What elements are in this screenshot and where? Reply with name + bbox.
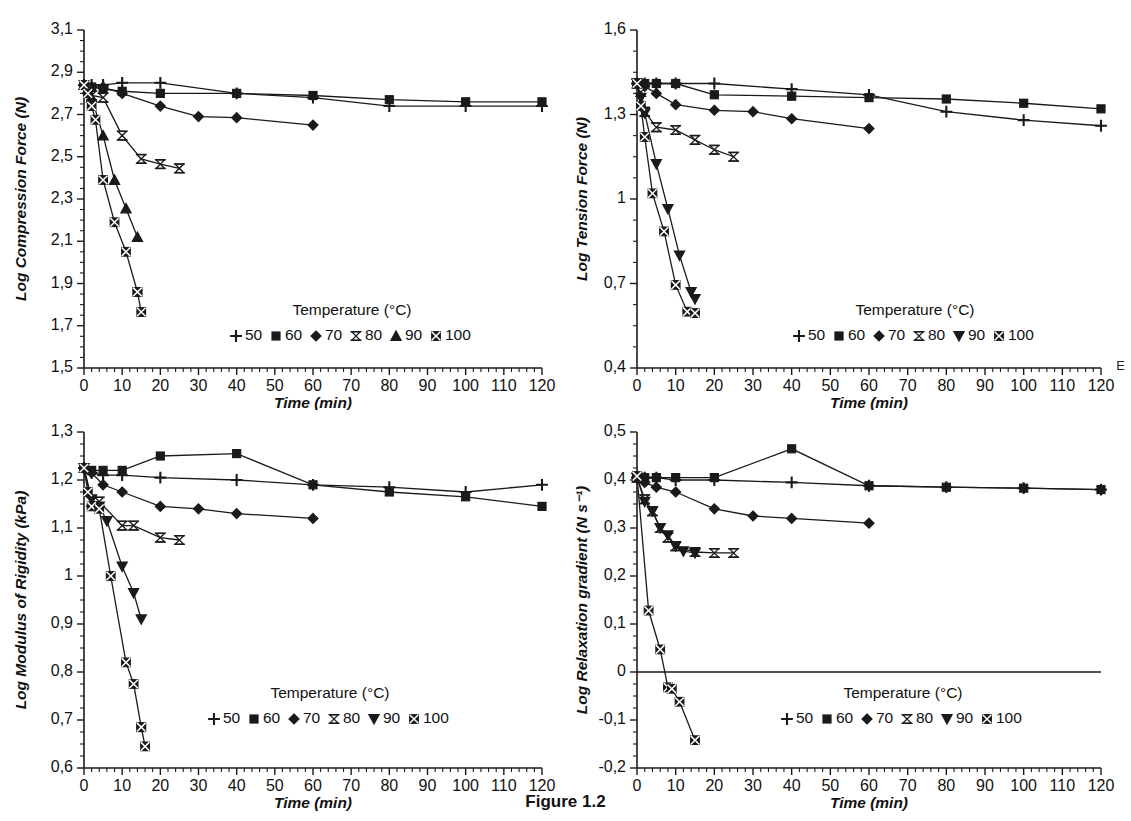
legend-title: Temperature (°C) [292,301,411,318]
x-tick-label: 50 [821,377,839,394]
legend-item-90: 90 [369,709,401,726]
legend-item-label: 80 [916,709,934,726]
marker-square-filled [156,452,164,460]
marker-square-crossed [633,79,642,88]
series-group [78,450,548,751]
marker-square-crossed [133,288,142,297]
x-tick-label: 20 [705,377,723,394]
marker-square-filled [710,91,718,99]
y-tick-label: 2,9 [51,62,73,79]
marker-square-filled [156,89,164,97]
marker-square-filled [788,92,796,100]
marker-triangle-down-filled [117,562,127,571]
legend-item-70: 70 [874,326,906,343]
legend-item-50: 50 [781,709,814,726]
marker-bowtie-open [690,136,701,145]
legend: Temperature (°C)5060708090100 [208,684,449,726]
series-group [631,78,1107,318]
x-tick-label: 80 [937,377,955,394]
marker-square-filled [1020,99,1028,107]
x-tick-label: 110 [1050,377,1076,394]
marker-bowtie-open [351,332,362,341]
legend-item-label: 100 [423,709,449,726]
marker-plus [786,477,798,489]
legend-item-label: 90 [383,709,401,726]
x-tick-label: 40 [228,377,246,394]
legend-item-label: 70 [325,326,343,343]
marker-square-crossed [637,102,646,111]
marker-square-crossed [660,227,669,236]
marker-diamond-filled [671,100,681,110]
legend-item-label: 70 [303,709,321,726]
marker-square-crossed [668,685,677,694]
series-60 [633,445,1105,494]
legend-item-label: 60 [836,709,854,726]
y-tick-label: -0,2 [598,758,626,775]
marker-square-crossed [410,715,419,724]
marker-diamond-filled [709,504,719,514]
marker-square-filled [865,482,873,490]
legend-item-90: 90 [942,709,974,726]
marker-diamond-filled [671,487,681,497]
marker-triangle-up-filled [109,175,119,184]
y-tick-label: 0,4 [604,358,626,375]
rigidity-chart-svg: 0,60,70,80,911,11,21,3010203040506070809… [0,410,566,821]
marker-plus [1018,114,1030,126]
y-axis-title: Log Tension Force (N) [573,117,590,281]
legend-item-label: 90 [405,326,423,343]
scan-edge-artifact: E [1116,358,1125,373]
marker-bowtie-open [902,715,913,724]
marker-square-crossed [129,680,138,689]
x-tick-label: 110 [491,377,517,394]
marker-square-crossed [656,645,665,654]
y-tick-label: 0,8 [51,662,73,679]
marker-square-filled [309,481,317,489]
marker-diamond-filled [232,509,242,519]
marker-diamond-filled [117,487,127,497]
y-axis-title: Log Modulus of Rigidity (kPa) [12,491,29,710]
marker-diamond-filled [748,511,758,521]
chart-panel-relaxation: -0,2-0,100,10,20,30,40,50102030405060708… [565,410,1131,821]
marker-bowtie-open [728,152,739,161]
y-tick-label: 0,1 [604,614,626,631]
marker-square-filled [1097,486,1105,494]
marker-triangle-down-filled [136,615,146,624]
marker-square-crossed [633,472,642,481]
x-tick-label: 0 [80,377,89,394]
marker-diamond-filled [194,504,204,514]
marker-plus [230,330,242,342]
marker-bowtie-open [98,93,109,102]
marker-triangle-down-filled [690,295,700,304]
y-tick-label: 0,2 [604,566,626,583]
legend-item-50: 50 [793,326,826,343]
marker-square-filled [385,488,393,496]
marker-diamond-filled [232,113,242,123]
y-tick-label: 1,3 [604,105,626,122]
x-tick-label: 70 [899,377,917,394]
legend-item-80: 80 [329,709,361,726]
legend: Temperature (°C)5060708090100 [793,301,1034,343]
x-axis-title: Time (min) [830,394,908,410]
series-100 [633,472,700,745]
marker-square-crossed [99,176,108,185]
legend-item-label: 50 [223,709,241,726]
y-tick-label: 2,1 [51,231,73,248]
y-tick-label: 0,7 [604,274,626,291]
x-axis-title: Time (min) [274,394,352,410]
legend-item-label: 50 [796,709,814,726]
legend-item-90: 90 [954,326,986,343]
legend-item-label: 90 [956,709,974,726]
marker-triangle-down-filled [954,332,964,341]
marker-plus [154,77,166,89]
marker-square-filled [652,474,660,482]
marker-square-crossed [640,133,649,142]
y-tick-label: 1,6 [604,20,626,37]
y-tick-label: -0,1 [598,710,626,727]
marker-square-crossed [648,189,657,198]
marker-triangle-down-filled [942,715,952,724]
series-90 [632,473,700,558]
marker-triangle-up-filled [121,203,131,212]
marker-bowtie-open [117,131,128,140]
marker-diamond-filled [155,501,165,511]
marker-square-crossed [671,281,680,290]
